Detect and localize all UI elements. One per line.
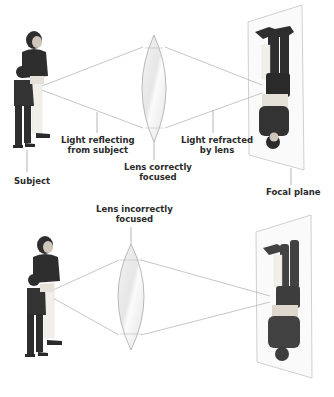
lens-correct-line2: focused [124, 172, 192, 182]
light-refracted-label: Light refracted by lens [181, 135, 253, 155]
top-panel [13, 5, 304, 185]
subject-figures-bottom [25, 236, 62, 357]
light-rays-bottom [53, 260, 270, 335]
light-reflecting-line2: from subject [61, 145, 135, 155]
bottom-panel [25, 215, 312, 378]
light-reflecting-line1: Light reflecting [61, 135, 135, 145]
light-reflecting-label: Light reflecting from subject [61, 135, 135, 155]
lens-correct-line1: Lens correctly [124, 162, 192, 172]
subject-figures-top [13, 31, 50, 148]
lens-incorrect-line2: focused [96, 214, 173, 224]
lens-correct [142, 35, 166, 142]
lens-correct-label: Lens correctly focused [124, 162, 192, 182]
lens-incorrect-label: Lens incorrectly focused [96, 204, 173, 224]
lens-focus-diagram [0, 0, 334, 397]
light-refracted-line2: by lens [181, 145, 253, 155]
lens-incorrect-line1: Lens incorrectly [96, 204, 173, 214]
subject-label: Subject [14, 176, 50, 186]
focal-plane-label: Focal plane [266, 187, 321, 197]
light-refracted-line1: Light refracted [181, 135, 253, 145]
